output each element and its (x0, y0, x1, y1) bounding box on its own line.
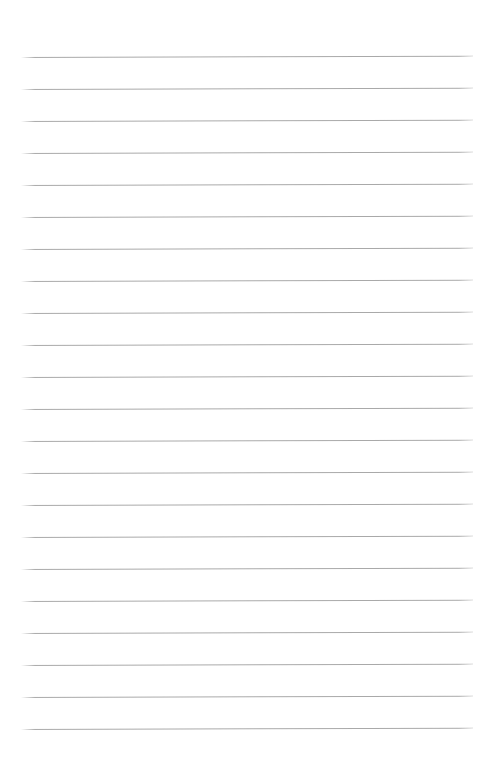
rule-line (21, 696, 473, 698)
rule-line (21, 440, 473, 442)
rule-line (21, 280, 473, 282)
rule-line (21, 632, 473, 634)
rule-line (21, 728, 473, 730)
rule-line (21, 152, 473, 154)
rule-line (21, 216, 473, 218)
rule-line (21, 408, 473, 410)
rule-line (21, 536, 473, 538)
rule-line (21, 472, 473, 474)
rule-line (21, 376, 473, 378)
rule-line (21, 504, 473, 506)
rule-line (21, 248, 473, 250)
rule-line (21, 344, 473, 346)
rule-line (21, 600, 473, 602)
rule-line (21, 120, 473, 122)
rule-line (21, 312, 473, 314)
rule-line (21, 56, 473, 58)
ruled-lines-area (0, 0, 495, 758)
rule-line (21, 184, 473, 186)
rule-line (21, 664, 473, 666)
lined-paper-page (0, 0, 495, 758)
rule-line (21, 568, 473, 570)
rule-line (21, 88, 473, 90)
